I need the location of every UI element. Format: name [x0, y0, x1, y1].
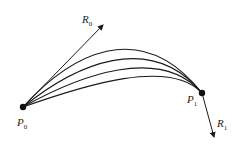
diagram-canvas: R0 P0 P1 R1 — [0, 0, 238, 145]
label-p0: P0 — [17, 117, 27, 131]
tangent-r1-arrow — [202, 93, 214, 137]
point-p0-dot — [20, 104, 26, 110]
curve-diagram — [0, 0, 238, 145]
label-r0: R0 — [82, 14, 92, 28]
point-p1-dot — [199, 90, 205, 96]
label-p1: P1 — [187, 94, 197, 108]
label-r1: R1 — [217, 118, 227, 132]
